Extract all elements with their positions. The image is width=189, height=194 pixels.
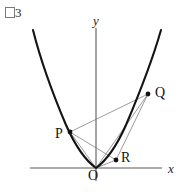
- point-Q-dot: [146, 92, 151, 97]
- x-axis-label: x: [168, 162, 174, 175]
- point-P-dot: [68, 130, 73, 135]
- segment-P-O: [70, 132, 96, 168]
- figure-container: 3 y x P Q R O: [0, 0, 189, 194]
- point-label-Q: Q: [155, 86, 165, 100]
- chord-group: [70, 94, 148, 168]
- y-axis-label: y: [93, 14, 99, 27]
- point-R-dot: [114, 158, 119, 163]
- point-label-P: P: [55, 127, 63, 141]
- parabola-curve: [33, 30, 161, 168]
- point-label-O: O: [88, 169, 98, 183]
- point-label-R: R: [121, 151, 130, 165]
